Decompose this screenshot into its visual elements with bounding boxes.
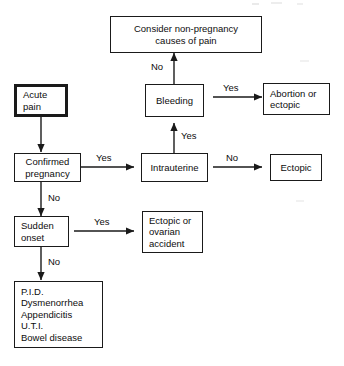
edge-label-intrauterine-yes: Yes [181,130,197,141]
node-intrauterine: Intrauterine [141,153,208,182]
edge-label-confirmed-pregnancy-no: No [48,192,60,203]
scan-artifact [271,2,282,4]
node-line: pain [23,101,41,113]
node-consider-non-pregnancy: Consider non-pregnancy causes of pain [110,16,262,53]
scan-artifact [297,3,303,5]
node-line: onset [21,232,44,244]
node-line: ovarian [149,226,180,238]
node-differential-list: P.I.D. Dysmenorrhea Appendicitis U.T.I. … [14,281,103,348]
edge-label-confirmed-pregnancy-yes: Yes [96,152,112,163]
node-abortion-or-ectopic: Abortion or ectopic [263,83,330,115]
node-line: Confirmed [26,156,70,168]
node-line: Intrauterine [150,162,198,174]
node-line: Consider non-pregnancy [134,23,238,35]
edge-label-sudden-onset-yes: Yes [94,216,110,227]
node-line: Appendicitis [21,309,72,321]
scan-artifact [252,3,259,5]
node-acute-pain: Acute pain [14,84,68,117]
node-line: Bleeding [156,95,193,107]
edge-label-bleeding-yes: Yes [223,82,239,93]
node-line: Acute [23,89,47,101]
node-confirmed-pregnancy: Confirmed pregnancy [14,153,81,182]
node-line: accident [149,238,184,250]
node-line: Sudden [21,220,54,232]
node-ectopic-or-ovarian-accident: Ectopic or ovarian accident [142,211,203,253]
node-sudden-onset: Sudden onset [14,216,69,247]
node-line: causes of pain [155,35,216,47]
scan-artifact [296,200,304,202]
node-line: P.I.D. [21,286,44,298]
flowchart-canvas: Consider non-pregnancy causes of pain Ac… [0,0,344,366]
node-ectopic: Ectopic [270,154,322,181]
edge-label-sudden-onset-no: No [48,256,60,267]
node-line: ectopic [270,99,300,111]
node-line: Bowel disease [21,332,82,344]
node-line: Dysmenorrhea [21,297,83,309]
node-line: Abortion or [270,88,316,100]
scan-artifact [300,60,309,62]
edge-label-bleeding-no: No [151,61,163,72]
node-line: U.T.I. [21,320,43,332]
node-line: pregnancy [25,168,69,180]
node-line: Ectopic or [149,215,191,227]
edge-label-intrauterine-no: No [226,152,238,163]
node-line: Ectopic [280,162,311,174]
node-bleeding: Bleeding [145,84,204,117]
